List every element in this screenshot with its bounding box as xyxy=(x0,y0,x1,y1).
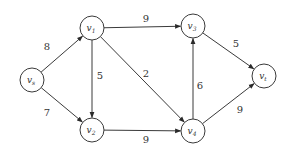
node-v2: v2 xyxy=(80,118,104,142)
node-vt: vt xyxy=(252,64,276,88)
graph-diagram: vsv1v2v3v4vt 879529659 xyxy=(0,0,290,155)
edge-weight-label: 9 xyxy=(143,13,149,24)
node-v4: v4 xyxy=(181,119,205,143)
edge-v3-vt xyxy=(203,33,254,69)
edge-weight-label: 2 xyxy=(143,68,149,79)
node-v3: v3 xyxy=(181,14,205,38)
edge-weight-label: 9 xyxy=(143,134,149,145)
edge-v4-vt xyxy=(202,84,254,124)
edge-v1-v3 xyxy=(104,26,181,28)
node-vs: vs xyxy=(20,68,44,92)
edge-v2-v4 xyxy=(104,130,181,131)
edge-weight-label: 6 xyxy=(197,80,203,91)
edge-weight-label: 9 xyxy=(237,104,243,115)
edge-labels-layer: 879529659 xyxy=(44,13,243,145)
edge-weight-label: 8 xyxy=(44,41,50,52)
edge-weight-label: 7 xyxy=(44,107,50,118)
edge-weight-label: 5 xyxy=(97,70,103,81)
edge-v1-v4 xyxy=(100,37,184,123)
node-v1: v1 xyxy=(80,16,104,40)
edge-weight-label: 5 xyxy=(233,38,239,49)
